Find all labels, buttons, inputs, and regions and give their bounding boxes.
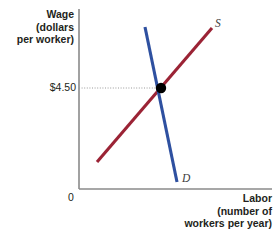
demand-curve xyxy=(145,27,177,182)
y-axis-title: Wage (dollars per worker) xyxy=(17,8,74,46)
x-axis-title-line-1: Labor xyxy=(184,192,272,205)
equilibrium-point-marker xyxy=(156,83,166,93)
x-axis-title: Labor (number of workers per year) xyxy=(184,192,272,230)
x-axis-title-line-2: (number of xyxy=(184,205,272,218)
y-axis-title-line-3: per worker) xyxy=(17,33,74,46)
y-axis-title-line-1: Wage xyxy=(17,8,74,21)
demand-curve-label: D xyxy=(182,172,190,184)
supply-curve xyxy=(97,28,212,162)
x-axis-title-line-3: workers per year) xyxy=(184,217,272,230)
origin-label: 0 xyxy=(68,191,74,203)
supply-demand-chart: Wage (dollars per worker) Labor (number … xyxy=(0,0,280,242)
y-axis-title-line-2: (dollars xyxy=(17,21,74,34)
supply-curve-label: S xyxy=(215,17,221,29)
price-tick-label: $4.50 xyxy=(50,81,76,93)
